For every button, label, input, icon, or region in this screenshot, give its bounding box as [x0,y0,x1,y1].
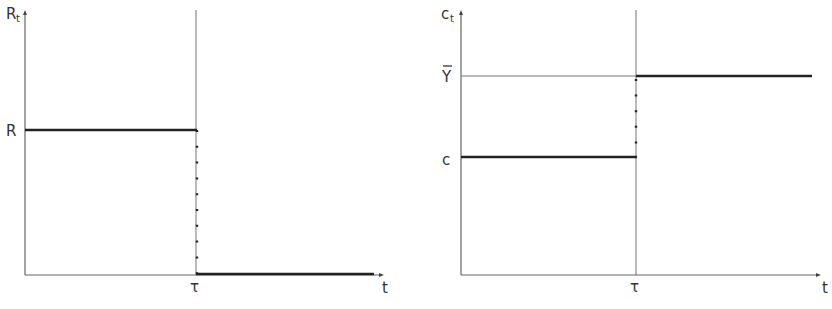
right-x-axis-arrow-icon [816,273,821,277]
right-y-tick-high: Y [441,68,452,86]
left-x-tick-label: τ [190,278,199,296]
right-y-axis-label: c [441,5,449,23]
left-y-axis-sub: t [16,13,20,24]
left-chart: R t R τ t [6,5,388,297]
right-y-axis-arrow-icon [459,10,463,15]
right-y-axis-sub: t [450,13,454,24]
right-x-axis-label: t [822,279,828,297]
left-y-axis-arrow-icon [23,10,27,15]
diagram-canvas: R t R τ t c t Y c τ t [0,0,832,309]
right-chart: c t Y c τ t [441,5,828,297]
left-x-axis-arrow-icon [379,273,384,277]
right-x-tick-label: τ [630,278,639,296]
right-y-tick-low: c [442,151,450,169]
left-x-axis-label: t [382,279,388,297]
left-y-axis-label: R [6,5,16,23]
left-y-tick-label: R [6,122,16,140]
